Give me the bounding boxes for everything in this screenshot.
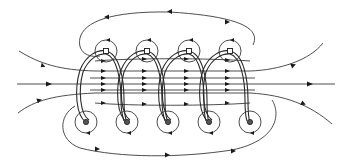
current-out-markers-top xyxy=(104,49,233,54)
solenoid-field-diagram: Magnetic field lines of a solenoid xyxy=(0,0,353,163)
outgoing-field-lines-right xyxy=(250,43,332,124)
field-lines-figure xyxy=(0,0,353,163)
current-marker-dot xyxy=(124,119,129,124)
current-marker-square xyxy=(145,49,150,54)
current-marker-dot xyxy=(206,119,211,124)
current-marker-square xyxy=(187,49,192,54)
current-in-markers-bottom xyxy=(83,119,252,124)
incoming-field-lines-left xyxy=(17,51,335,113)
interior-field-lines xyxy=(90,59,255,106)
current-marker-dot xyxy=(83,119,88,124)
current-marker-square xyxy=(104,49,109,54)
current-marker-dot xyxy=(247,119,252,124)
current-marker-dot xyxy=(165,119,170,124)
current-marker-square xyxy=(228,49,233,54)
